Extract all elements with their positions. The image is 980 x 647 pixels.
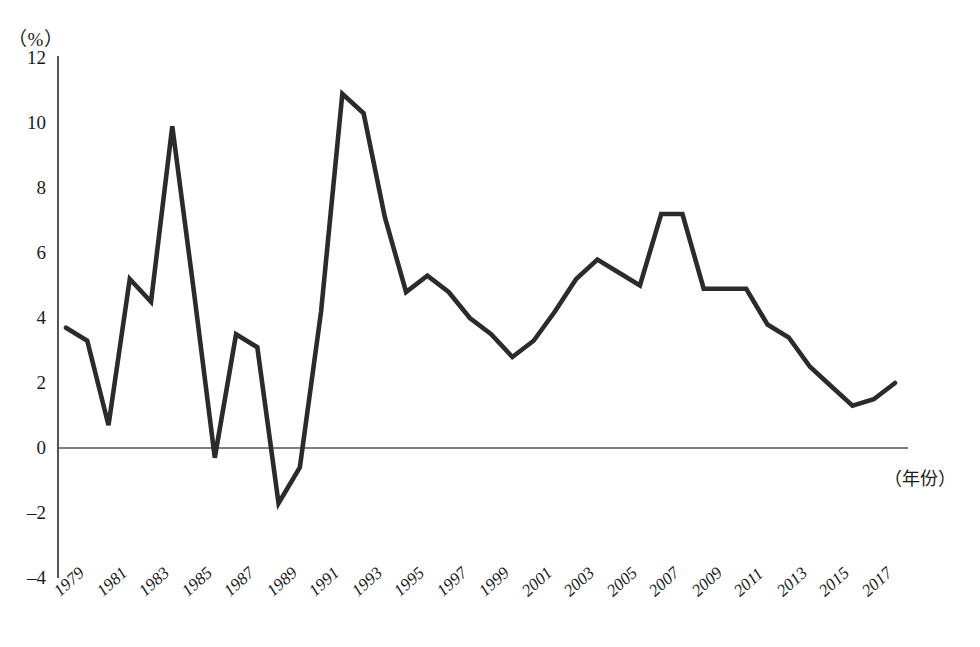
- y-tick-label: 12: [2, 47, 46, 69]
- y-tick-label: 8: [2, 177, 46, 199]
- series-group: [66, 94, 895, 504]
- data-line: [66, 94, 895, 504]
- y-tick-label: 10: [2, 112, 46, 134]
- y-tick-label: –2: [2, 502, 46, 524]
- y-tick-label: 6: [2, 242, 46, 264]
- y-tick-label: 2: [2, 372, 46, 394]
- line-chart-plot: [0, 0, 980, 647]
- y-tick-label: –4: [2, 567, 46, 589]
- chart-container: （%） （年份） –4–2024681012 19791981198319851…: [0, 0, 980, 647]
- axes-group: [58, 56, 908, 578]
- y-tick-label: 4: [2, 307, 46, 329]
- y-tick-label: 0: [2, 437, 46, 459]
